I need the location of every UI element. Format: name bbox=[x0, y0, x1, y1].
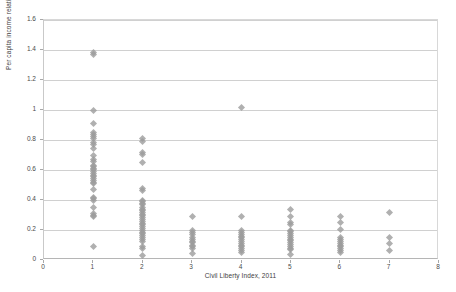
y-axis-title: Per capita income relative to the US, 20… bbox=[5, 58, 12, 70]
data-point bbox=[90, 107, 97, 114]
data-point bbox=[90, 51, 97, 58]
y-tick-label: 1.4 bbox=[2, 46, 36, 53]
y-tick-label: 0.6 bbox=[2, 166, 36, 173]
data-point bbox=[337, 226, 344, 233]
x-tick-mark bbox=[241, 260, 242, 263]
data-point bbox=[386, 247, 393, 254]
y-tick-label: 1 bbox=[2, 106, 36, 113]
x-axis-title: Civil Liberty Index, 2011 bbox=[43, 272, 438, 279]
gridline-horizontal bbox=[44, 50, 437, 51]
x-tick-label: 1 bbox=[77, 264, 107, 271]
x-tick-mark bbox=[389, 260, 390, 263]
data-point bbox=[238, 213, 245, 220]
x-tick-label: 4 bbox=[226, 264, 256, 271]
data-point bbox=[90, 213, 97, 220]
y-tick-mark bbox=[40, 79, 43, 80]
y-tick-mark bbox=[40, 139, 43, 140]
y-tick-mark bbox=[40, 169, 43, 170]
y-tick-label: 0 bbox=[2, 256, 36, 263]
y-tick-label: 1.6 bbox=[2, 16, 36, 23]
y-tick-label: 0.2 bbox=[2, 226, 36, 233]
y-tick-mark bbox=[40, 49, 43, 50]
x-tick-label: 7 bbox=[374, 264, 404, 271]
y-tick-mark bbox=[40, 109, 43, 110]
data-point bbox=[139, 252, 146, 259]
x-tick-label: 8 bbox=[423, 264, 453, 271]
data-point bbox=[287, 205, 294, 212]
y-tick-label: 0.4 bbox=[2, 196, 36, 203]
gridline-horizontal bbox=[44, 20, 437, 21]
plot-area bbox=[43, 19, 438, 259]
data-point bbox=[90, 120, 97, 127]
gridline-horizontal bbox=[44, 80, 437, 81]
x-tick-label: 3 bbox=[176, 264, 206, 271]
data-point bbox=[139, 159, 146, 166]
data-point bbox=[189, 250, 196, 257]
x-tick-label: 6 bbox=[324, 264, 354, 271]
x-tick-mark bbox=[290, 260, 291, 263]
gridline-horizontal bbox=[44, 200, 437, 201]
y-tick-mark bbox=[40, 19, 43, 20]
scatter-chart: Per capita income relative to the US, 20… bbox=[0, 0, 456, 292]
data-point bbox=[386, 209, 393, 216]
data-point bbox=[90, 243, 97, 250]
y-tick-label: 0.8 bbox=[2, 136, 36, 143]
y-tick-mark bbox=[40, 229, 43, 230]
x-tick-mark bbox=[92, 260, 93, 263]
data-point bbox=[189, 213, 196, 220]
gridline-horizontal bbox=[44, 140, 437, 141]
x-tick-mark bbox=[142, 260, 143, 263]
x-tick-mark bbox=[191, 260, 192, 263]
x-tick-mark bbox=[43, 260, 44, 263]
x-tick-label: 5 bbox=[275, 264, 305, 271]
x-tick-label: 0 bbox=[28, 264, 58, 271]
x-tick-mark bbox=[339, 260, 340, 263]
x-tick-mark bbox=[438, 260, 439, 263]
data-point bbox=[386, 240, 393, 247]
gridline-horizontal bbox=[44, 170, 437, 171]
x-tick-label: 2 bbox=[127, 264, 157, 271]
data-point bbox=[90, 186, 97, 193]
data-point bbox=[287, 251, 294, 258]
y-tick-mark bbox=[40, 199, 43, 200]
y-tick-label: 1.2 bbox=[2, 76, 36, 83]
